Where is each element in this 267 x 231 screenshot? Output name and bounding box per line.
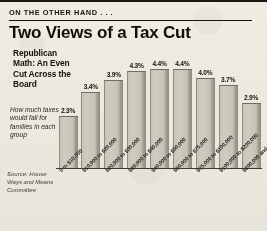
bar-value-label: 4.0% (198, 69, 212, 76)
page-title: Two Views of a Tax Cut (9, 23, 191, 43)
bar-value-label: 4.4% (175, 60, 189, 67)
header-divider (9, 20, 252, 21)
source-credit: Source: House Ways and Means Committee (7, 170, 59, 194)
bar-value-label: 2.9% (244, 94, 258, 101)
x-tick-label: $100,000 to $200,000 (218, 169, 238, 175)
x-tick-label: $40,000 to $50,000 (150, 169, 170, 175)
x-axis-tick-labels: 0 to $10,000$10,000 to $20,000$20,000 to… (58, 169, 261, 231)
x-tick-label: $10,000 to $20,000 (81, 169, 101, 175)
bar-plot-area: 2.3%3.4%3.9%4.3%4.4%4.4%4.0%3.7%2.9% (58, 58, 261, 168)
x-tick-label: $75,000 to $100,000 (195, 169, 215, 175)
infographic-panel: ON THE OTHER HAND . . . Two Views of a T… (0, 0, 267, 231)
bar-chart: 2.3%3.4%3.9%4.3%4.4%4.4%4.0%3.7%2.9% (58, 58, 261, 168)
bar-value-label: 3.7% (221, 76, 235, 83)
bar-value-label: 4.4% (152, 60, 166, 67)
bar-value-label: 4.3% (130, 62, 144, 69)
bar-value-label: 3.4% (84, 83, 98, 90)
x-tick-label: $200,000 and over (241, 169, 261, 175)
x-tick-label: $50,000 to $75,000 (172, 169, 192, 175)
bar-value-label: 3.9% (107, 71, 121, 78)
x-tick-label: $30,000 to $40,000 (127, 169, 147, 175)
bar-value-label: 2.3% (61, 107, 75, 114)
kicker-label: ON THE OTHER HAND . . . (9, 8, 113, 17)
x-tick-label: 0 to $10,000 (58, 169, 78, 175)
x-tick-label: $20,000 to $30,000 (104, 169, 124, 175)
